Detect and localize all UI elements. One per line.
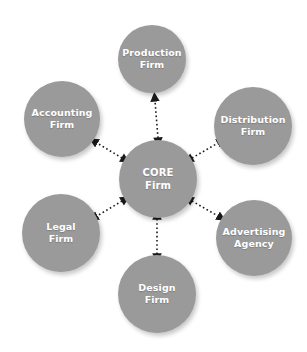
connector-core-distribution [192, 143, 218, 158]
node-label-production-firm: Production Firm [116, 47, 187, 71]
node-core-firm[interactable]: CORE Firm [119, 140, 197, 218]
node-label-distribution-firm: Distribution Firm [214, 114, 291, 138]
network-diagram: Production Firm Distribution Firm Advert… [0, 0, 307, 352]
node-legal-firm[interactable]: Legal Firm [22, 194, 100, 272]
connector-core-production [155, 101, 158, 138]
node-label-legal-firm: Legal Firm [40, 221, 81, 245]
node-design-firm[interactable]: Design Firm [118, 255, 196, 333]
node-label-accounting-firm: Accounting Firm [25, 107, 98, 131]
node-label-design-firm: Design Firm [132, 282, 181, 306]
node-accounting-firm[interactable]: Accounting Firm [24, 81, 100, 157]
connector-core-legal [97, 201, 122, 216]
connector-core-accounting [97, 143, 122, 158]
connector-core-advertising [192, 201, 218, 216]
node-advertising-agency[interactable]: Advertising Agency [216, 200, 292, 276]
node-production-firm[interactable]: Production Firm [118, 25, 186, 93]
node-distribution-firm[interactable]: Distribution Firm [214, 87, 292, 165]
node-label-advertising-agency: Advertising Agency [217, 226, 292, 250]
node-label-core-firm: CORE Firm [137, 166, 180, 192]
